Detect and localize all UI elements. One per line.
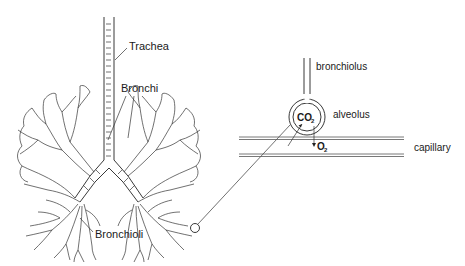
alveolus-detail: CO 2 O 2 (239, 58, 404, 157)
bronchioli-label: Bronchioli (95, 228, 143, 240)
left-lung-tree (18, 85, 101, 262)
alveolus-label: alveolus (333, 109, 370, 120)
respiratory-diagram: Trachea Bronchi Bronchioli CO (0, 0, 465, 266)
trachea (104, 17, 114, 160)
bronchi-label: Bronchi (121, 82, 158, 94)
label-bronchi: Bronchi (108, 82, 158, 140)
capillary-label: capillary (414, 142, 451, 153)
co2-subscript: 2 (311, 118, 315, 124)
trachea-label: Trachea (129, 40, 170, 52)
label-trachea: Trachea (115, 40, 170, 60)
magnify-callout (191, 125, 291, 233)
o2-subscript: 2 (324, 147, 328, 153)
co2-label: CO (297, 112, 312, 123)
bronchi (75, 160, 143, 202)
bronchiolus-label: bronchiolus (316, 61, 367, 72)
